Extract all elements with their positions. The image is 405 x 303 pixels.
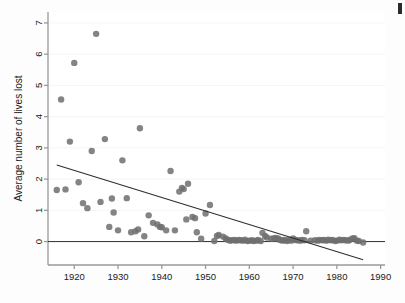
- data-point: [360, 239, 366, 245]
- data-point: [167, 168, 173, 174]
- data-point: [102, 136, 108, 142]
- x-tick-label: 1940: [151, 271, 172, 282]
- plot-background-layer: [48, 12, 385, 265]
- y-tick-labels-group: 01234567: [34, 20, 45, 244]
- data-point: [54, 187, 60, 193]
- x-tick-label: 1970: [283, 271, 304, 282]
- data-point: [180, 186, 186, 192]
- data-point: [93, 31, 99, 37]
- data-point: [198, 236, 204, 242]
- x-tick-label: 1980: [326, 271, 347, 282]
- data-point: [97, 199, 103, 205]
- data-point: [110, 209, 116, 215]
- chart-canvas: 01234567 1920193019401950196019701980199…: [0, 0, 405, 303]
- y-tick-label: 7: [34, 20, 45, 25]
- data-point: [62, 186, 68, 192]
- data-point: [141, 233, 147, 239]
- y-tick-label: 0: [34, 239, 45, 244]
- data-point: [124, 195, 130, 201]
- x-tick-label: 1920: [64, 271, 85, 282]
- data-point: [258, 238, 264, 244]
- y-tick-label: 2: [34, 176, 45, 181]
- data-point: [303, 228, 309, 234]
- data-point: [115, 227, 121, 233]
- data-point: [172, 227, 178, 233]
- data-point: [185, 181, 191, 187]
- data-point: [80, 200, 86, 206]
- y-axis-title-text: Average number of lives lost: [13, 75, 24, 201]
- scatter-plot: 01234567 1920193019401950196019701980199…: [0, 0, 405, 303]
- data-point: [71, 60, 77, 66]
- data-point: [163, 227, 169, 233]
- y-tick-label: 1: [34, 208, 45, 213]
- data-point: [67, 138, 73, 144]
- data-point: [109, 195, 115, 201]
- x-tick-labels-group: 19201930194019501960197019801990: [64, 271, 392, 282]
- figure-container: 01234567 1920193019401950196019701980199…: [0, 0, 405, 303]
- x-tick-label: 1960: [239, 271, 260, 282]
- data-point: [89, 148, 95, 154]
- y-tick-label: 6: [34, 52, 45, 57]
- corner-mark-icon: [398, 3, 402, 14]
- data-point: [145, 212, 151, 218]
- x-tick-label: 1990: [370, 271, 391, 282]
- x-tick-label: 1950: [195, 271, 216, 282]
- data-point: [183, 216, 189, 222]
- data-point: [192, 215, 198, 221]
- y-tick-label: 4: [34, 114, 45, 119]
- y-axis-title: Average number of lives lost: [13, 75, 24, 201]
- plot-area-background: [48, 12, 385, 265]
- data-point: [84, 205, 90, 211]
- data-point: [135, 226, 141, 232]
- data-point: [119, 157, 125, 163]
- x-tick-label: 1930: [107, 271, 128, 282]
- y-tick-label: 5: [34, 83, 45, 88]
- data-point: [194, 229, 200, 235]
- data-point: [75, 179, 81, 185]
- data-point: [58, 96, 64, 102]
- data-point: [137, 125, 143, 131]
- data-point: [106, 224, 112, 230]
- data-point: [207, 202, 213, 208]
- y-tick-label: 3: [34, 145, 45, 150]
